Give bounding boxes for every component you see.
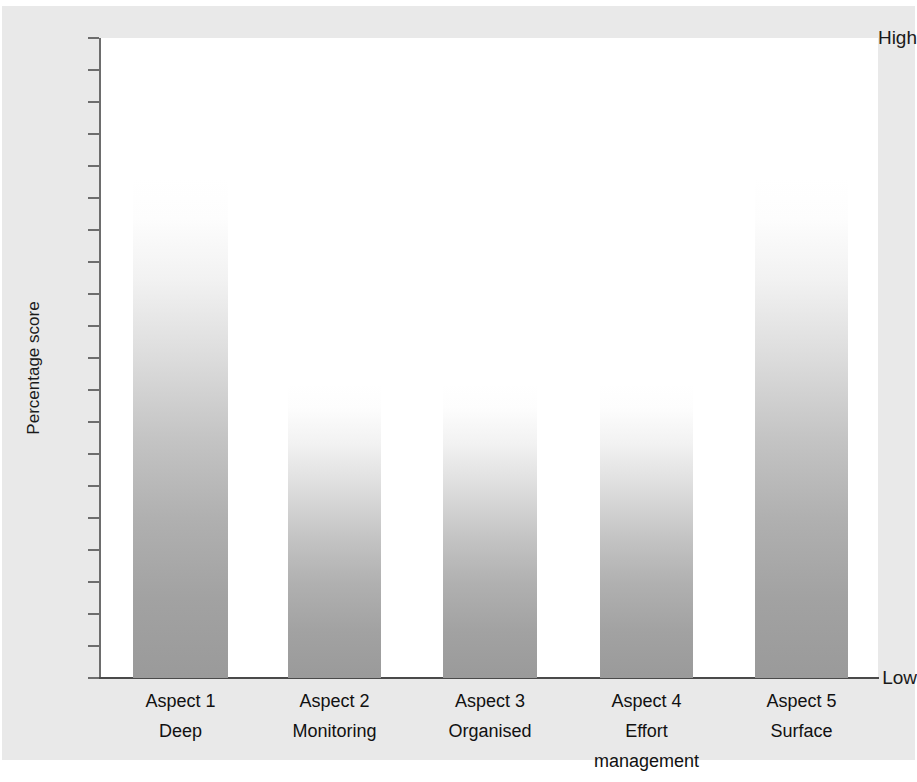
y-axis-tick (88, 37, 99, 39)
x-axis-label-category: Aspect 1 (145, 691, 215, 711)
y-axis-tick (88, 613, 99, 615)
x-axis-label-5: Aspect 5Surface (707, 686, 897, 746)
y-axis-tick (88, 325, 99, 327)
x-axis-label-sublabel: Surface (707, 716, 897, 746)
x-axis-label-category: Aspect 4 (611, 691, 681, 711)
bar-2 (288, 384, 381, 678)
x-axis-label-category: Aspect 2 (299, 691, 369, 711)
y-axis-tick (88, 389, 99, 391)
y-axis-tick (88, 517, 99, 519)
y-axis-tick (88, 549, 99, 551)
y-axis-tick (88, 261, 99, 263)
bar-3 (443, 384, 537, 678)
y-axis-label-high: High (833, 28, 917, 47)
x-axis-label-sublabel-cont: management (552, 746, 742, 776)
chart-figure: High Low Percentage score Aspect 1DeepAs… (0, 0, 917, 782)
y-axis-tick (88, 229, 99, 231)
bar-4 (600, 384, 693, 678)
x-axis-label-category: Aspect 3 (455, 691, 525, 711)
y-axis-tick (88, 101, 99, 103)
y-axis-tick (88, 133, 99, 135)
y-axis-tick (88, 485, 99, 487)
y-axis-tick (88, 645, 99, 647)
y-axis-tick (88, 677, 99, 679)
x-axis-label-category: Aspect 5 (766, 691, 836, 711)
y-axis-tick (88, 165, 99, 167)
y-axis-title: Percentage score (24, 268, 44, 468)
bar-1 (133, 178, 228, 678)
y-axis-tick (88, 293, 99, 295)
y-axis-tick (88, 69, 99, 71)
y-axis-tick (88, 581, 99, 583)
y-axis-tick (88, 197, 99, 199)
y-axis-tick (88, 357, 99, 359)
y-axis-tick (88, 421, 99, 423)
y-axis-line (99, 38, 101, 679)
bar-5 (755, 178, 848, 678)
y-axis-tick (88, 453, 99, 455)
